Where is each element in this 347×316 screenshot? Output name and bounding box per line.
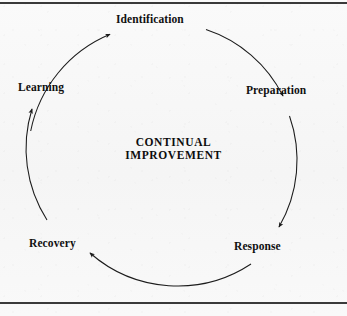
- node-label-learning: Learning: [18, 82, 64, 94]
- node-label-recovery: Recovery: [29, 238, 76, 250]
- arc-response-to-recovery: [90, 253, 251, 286]
- node-label-preparation: Preparation: [246, 85, 306, 97]
- figure-canvas: Identification Preparation Response Reco…: [0, 0, 347, 316]
- center-title: CONTINUAL IMPROVEMENT: [0, 136, 347, 162]
- arc-recovery-to-learning: [26, 109, 47, 220]
- arc-preparation-to-response: [279, 116, 297, 227]
- node-label-response: Response: [234, 241, 281, 253]
- center-title-line-2: IMPROVEMENT: [0, 149, 347, 162]
- center-title-line-1: CONTINUAL: [0, 136, 347, 149]
- node-label-identification: Identification: [116, 14, 184, 26]
